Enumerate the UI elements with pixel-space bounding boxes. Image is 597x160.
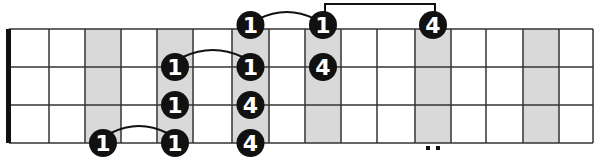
shaded-fret-column bbox=[157, 29, 193, 143]
slur-arc bbox=[259, 12, 316, 19]
shaded-fret-column bbox=[415, 29, 451, 143]
finger-label: 4 bbox=[425, 13, 440, 38]
shaded-fret-column bbox=[85, 29, 121, 143]
finger-label: 1 bbox=[243, 55, 258, 80]
note-dot: 1 bbox=[161, 91, 189, 119]
note-dot: 1 bbox=[309, 11, 337, 39]
note-dot: 4 bbox=[309, 53, 337, 81]
finger-label: 1 bbox=[167, 93, 182, 118]
finger-label: 4 bbox=[243, 131, 258, 156]
finger-label: 4 bbox=[315, 55, 330, 80]
note-dot: 1 bbox=[89, 129, 117, 157]
finger-label: 1 bbox=[95, 131, 110, 156]
finger-label: 1 bbox=[243, 13, 258, 38]
note-dot: 1 bbox=[237, 53, 265, 81]
note-dot: 4 bbox=[237, 129, 265, 157]
shaded-fret-column bbox=[232, 29, 269, 143]
slide-bracket bbox=[325, 4, 435, 19]
position-marker bbox=[426, 146, 440, 150]
finger-label: 1 bbox=[315, 13, 330, 38]
note-dot: 1 bbox=[161, 129, 189, 157]
finger-label: 1 bbox=[167, 55, 182, 80]
shaded-fret-column bbox=[523, 29, 559, 143]
shaded-fret-column bbox=[305, 29, 341, 143]
note-dot: 4 bbox=[237, 91, 265, 119]
note-dot: 1 bbox=[161, 53, 189, 81]
fretboard-diagram: 11411414114 bbox=[0, 0, 597, 160]
finger-label: 1 bbox=[167, 131, 182, 156]
finger-label: 4 bbox=[243, 93, 258, 118]
nut bbox=[6, 29, 11, 143]
fret-marker-dot bbox=[426, 146, 430, 150]
fret-marker-dot bbox=[436, 146, 440, 150]
shaded-frets bbox=[85, 29, 559, 143]
note-dot: 4 bbox=[419, 11, 447, 39]
note-dot: 1 bbox=[237, 11, 265, 39]
